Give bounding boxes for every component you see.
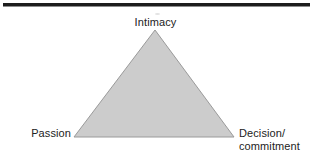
- triangle-shape: [74, 30, 234, 137]
- triangle-vertex-label-intimacy: Intimacy: [0, 16, 311, 28]
- scan-artifact-speck: [155, 13, 160, 15]
- decision-label-line-2: commitment: [239, 140, 315, 152]
- triangle-vertex-label-passion: Passion: [0, 127, 71, 139]
- decision-label-line-1: Decision/: [239, 127, 315, 139]
- figure-canvas: Intimacy Passion Decision/ commitment: [0, 0, 315, 166]
- triangle-vertex-label-decision-commitment: Decision/ commitment: [239, 127, 315, 152]
